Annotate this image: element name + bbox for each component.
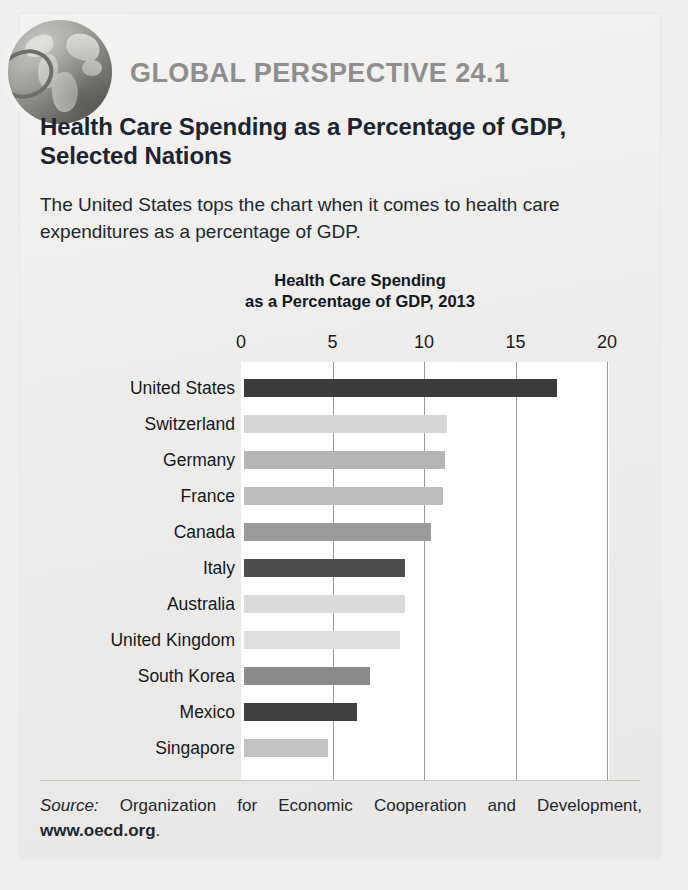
bar-row (241, 694, 609, 730)
chart-title: Health Care Spending as a Percentage of … (120, 270, 600, 313)
source-note: Source: Organization for Economic Cooper… (40, 794, 642, 843)
bar-row (241, 586, 609, 622)
source-period: . (156, 821, 161, 840)
category-label: Australia (20, 586, 235, 622)
plot-area (241, 362, 609, 780)
bar (244, 739, 328, 757)
bar-row (241, 514, 609, 550)
category-label: Italy (20, 550, 235, 586)
x-tick-label-10: 10 (414, 332, 434, 353)
category-label: France (20, 478, 235, 514)
bar-row (241, 622, 609, 658)
global-perspective-card: GLOBAL PERSPECTIVE 24.1 Health Care Spen… (20, 14, 660, 858)
source-url[interactable]: www.oecd.org (40, 821, 156, 840)
bar-row (241, 658, 609, 694)
x-tick-label-20: 20 (597, 332, 617, 353)
bar (244, 595, 405, 613)
category-label: United States (20, 370, 235, 406)
bar (244, 559, 405, 577)
bar (244, 487, 443, 505)
bar-row (241, 730, 609, 766)
x-tick-label-5: 5 (327, 332, 337, 353)
bar (244, 631, 400, 649)
category-label: United Kingdom (20, 622, 235, 658)
bar-row (241, 406, 609, 442)
bar-row (241, 442, 609, 478)
source-label: Source: (40, 796, 99, 815)
bar (244, 667, 370, 685)
footer-divider (40, 780, 640, 781)
intro-paragraph: The United States tops the chart when it… (40, 192, 640, 246)
x-tick-label-15: 15 (505, 332, 525, 353)
chart-title-line-1: Health Care Spending (120, 270, 600, 291)
bar (244, 379, 557, 397)
bar-chart: Health Care Spending as a Percentage of … (20, 270, 660, 790)
globe-icon (8, 20, 112, 124)
bar (244, 451, 445, 469)
bar (244, 415, 447, 433)
category-label: Singapore (20, 730, 235, 766)
category-label: South Korea (20, 658, 235, 694)
bar-row (241, 478, 609, 514)
category-label: Switzerland (20, 406, 235, 442)
page-title: Health Care Spending as a Percentage of … (40, 112, 640, 171)
chart-title-line-2: as a Percentage of GDP, 2013 (120, 291, 600, 312)
kicker-heading: GLOBAL PERSPECTIVE 24.1 (130, 58, 509, 89)
bar (244, 703, 357, 721)
bar (244, 523, 431, 541)
bar-row (241, 370, 609, 406)
category-label: Canada (20, 514, 235, 550)
category-label: Mexico (20, 694, 235, 730)
bar-row (241, 550, 609, 586)
category-label: Germany (20, 442, 235, 478)
source-text: Organization for Economic Cooperation an… (99, 796, 642, 815)
x-tick-label-0: 0 (236, 332, 246, 353)
